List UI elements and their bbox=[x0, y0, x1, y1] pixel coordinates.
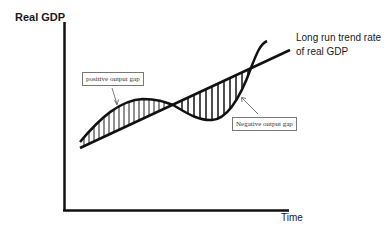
negative-gap-arrow bbox=[242, 98, 258, 114]
trend-label-line2: of real GDP bbox=[296, 46, 348, 57]
trend-label-line1: Long run trend rate bbox=[296, 32, 381, 43]
positive-gap-label: positive output gap bbox=[82, 72, 144, 86]
x-axis-label: Time bbox=[281, 212, 303, 223]
positive-gap-arrow bbox=[112, 88, 117, 104]
negative-gap-label: Negative output gap bbox=[232, 117, 297, 131]
trend-line bbox=[80, 50, 290, 148]
y-axis-label: Real GDP bbox=[15, 11, 65, 23]
